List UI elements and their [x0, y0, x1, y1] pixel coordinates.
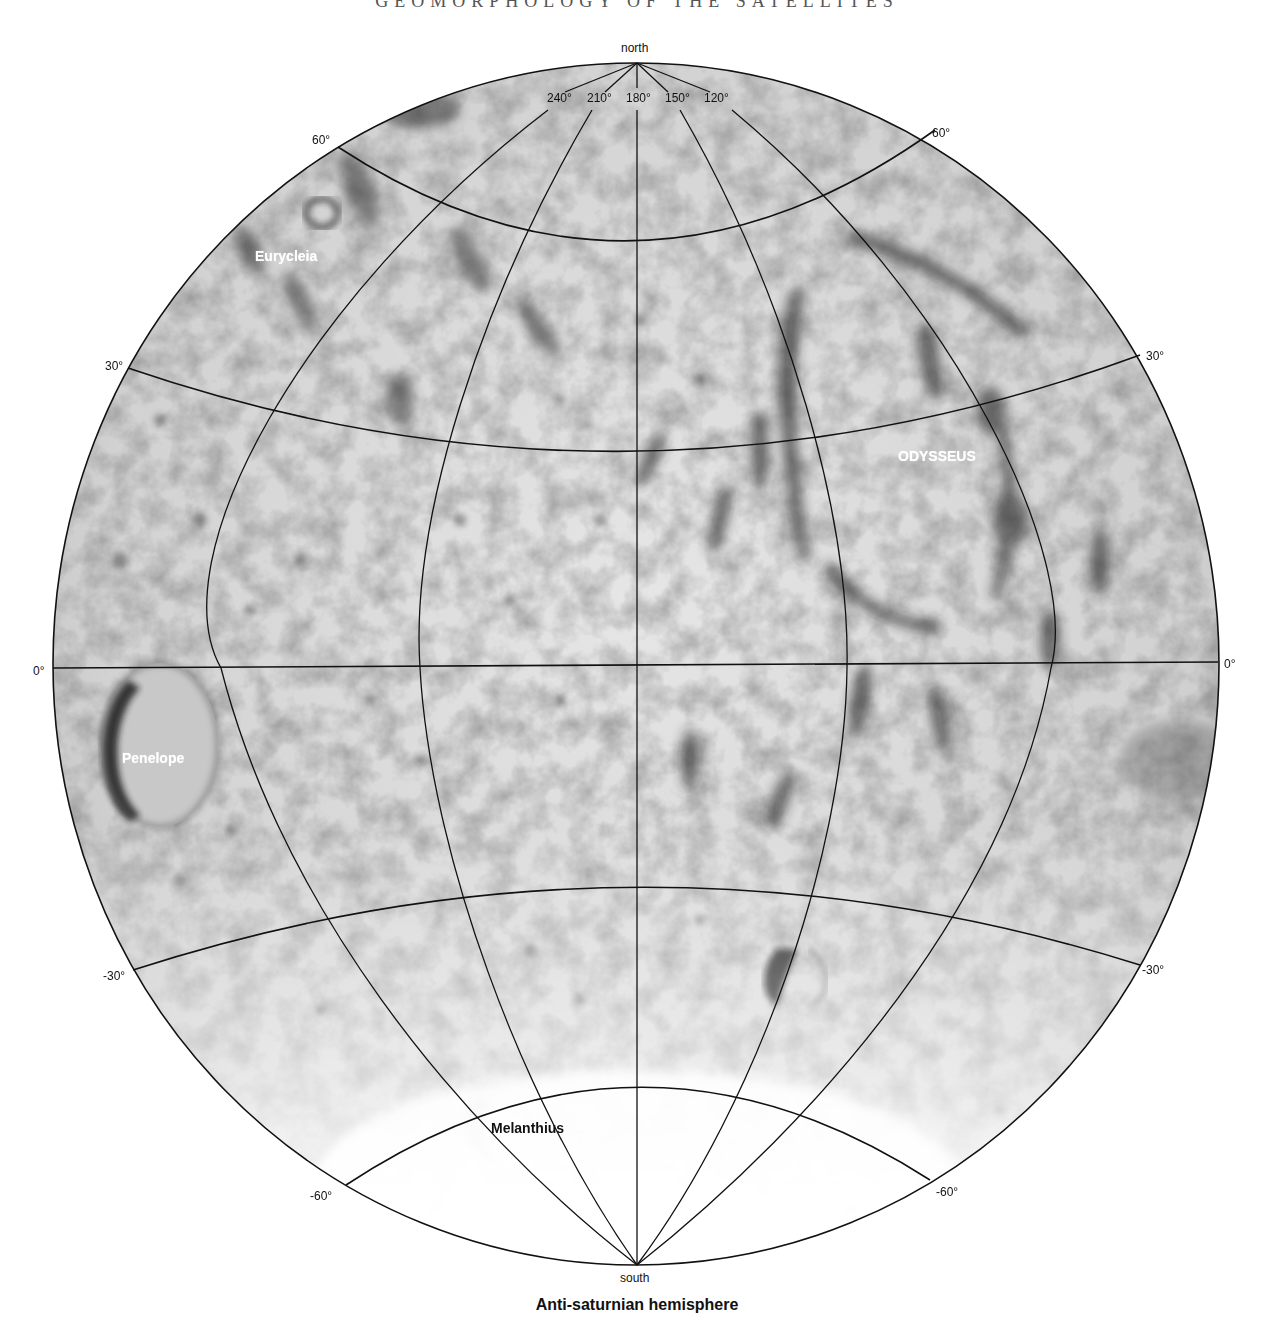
- longitude-label-120: 120°: [704, 92, 729, 104]
- feature-label-melanthius: Melanthius: [491, 1121, 564, 1135]
- longitude-label-180: 180°: [626, 92, 651, 104]
- latitude-label-30s-left: -30°: [103, 970, 125, 982]
- latitude-label-0-right: 0°: [1224, 658, 1235, 670]
- longitude-label-210: 210°: [587, 92, 612, 104]
- feature-label-penelope: Penelope: [122, 751, 184, 765]
- longitude-label-240: 240°: [547, 92, 572, 104]
- longitude-label-150: 150°: [665, 92, 690, 104]
- latitude-label-30n-left: 30°: [105, 360, 123, 372]
- north-pole-label: north: [621, 42, 648, 54]
- hemisphere-map: [0, 0, 1274, 1336]
- feature-label-eurycleia: Eurycleia: [255, 249, 317, 263]
- latitude-label-30n-right: 30°: [1146, 350, 1164, 362]
- map-caption: Anti-saturnian hemisphere: [0, 1296, 1274, 1314]
- latitude-label-0-left: 0°: [33, 665, 44, 677]
- south-pole-label: south: [620, 1272, 649, 1284]
- latitude-label-60s-right: -60°: [936, 1186, 958, 1198]
- penelope-crater: [102, 663, 218, 827]
- latitude-label-60n-left: 60°: [312, 134, 330, 146]
- latitude-label-30s-right: -30°: [1142, 964, 1164, 976]
- feature-label-odysseus: ODYSSEUS: [898, 449, 976, 463]
- latitude-label-60s-left: -60°: [310, 1190, 332, 1202]
- latitude-label-60n-right: 60°: [932, 127, 950, 139]
